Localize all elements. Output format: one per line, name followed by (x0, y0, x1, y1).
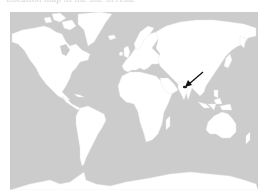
location-marker (183, 86, 187, 88)
world-map-svg (10, 12, 258, 190)
map-caption: Location map of the site in Asia (6, 0, 256, 4)
world-map (10, 12, 258, 190)
